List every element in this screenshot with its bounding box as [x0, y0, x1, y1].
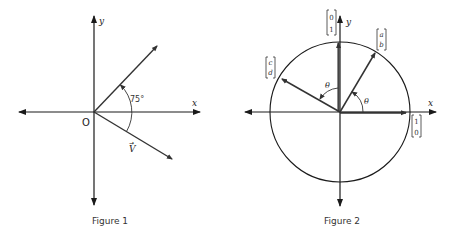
- svg-text:c: c: [269, 59, 273, 67]
- fig1-angle-label: 75°: [130, 95, 144, 104]
- svg-text:1: 1: [414, 118, 418, 126]
- fig1-x-label: x: [192, 98, 197, 108]
- fig2-y-label: y: [345, 17, 352, 27]
- fig2-caption: Figure 2: [324, 216, 360, 226]
- fig2-angle-arc-1: [352, 92, 363, 112]
- svg-text:0: 0: [329, 14, 333, 22]
- fig2-angle-label-1: θ: [364, 97, 369, 106]
- svg-text:d: d: [268, 69, 273, 77]
- fig1-origin-label: O: [82, 117, 90, 128]
- fig2-vector-ab: [340, 53, 375, 112]
- figure-2: θ θ x y 0 1 a b c d 1 0: [245, 10, 436, 226]
- svg-text:1: 1: [329, 26, 333, 34]
- fig1-angle-arc: [121, 85, 132, 132]
- fig1-vector-arrow-mark: →: [129, 139, 134, 146]
- svg-text:b: b: [379, 41, 384, 49]
- fig1-y-label: y: [98, 16, 105, 26]
- fig2-x-label: x: [428, 98, 433, 108]
- fig2-matrix-e2: 0 1: [327, 10, 336, 35]
- fig1-caption: Figure 1: [92, 216, 128, 226]
- fig2-angle-label-2: θ: [325, 81, 330, 90]
- fig2-matrix-cd: c d: [266, 57, 275, 78]
- fig1-upper-vector: [94, 46, 157, 112]
- diagram-canvas: 75° O x y V → Figure 1 θ θ x y 0: [0, 0, 451, 239]
- fig2-matrix-ab: a b: [377, 29, 386, 50]
- figure-1: 75° O x y V → Figure 1: [19, 16, 200, 226]
- fig2-matrix-e1: 1 0: [412, 115, 421, 137]
- fig2-vector-cd: [282, 79, 340, 112]
- svg-text:0: 0: [414, 129, 418, 137]
- svg-text:a: a: [379, 31, 383, 39]
